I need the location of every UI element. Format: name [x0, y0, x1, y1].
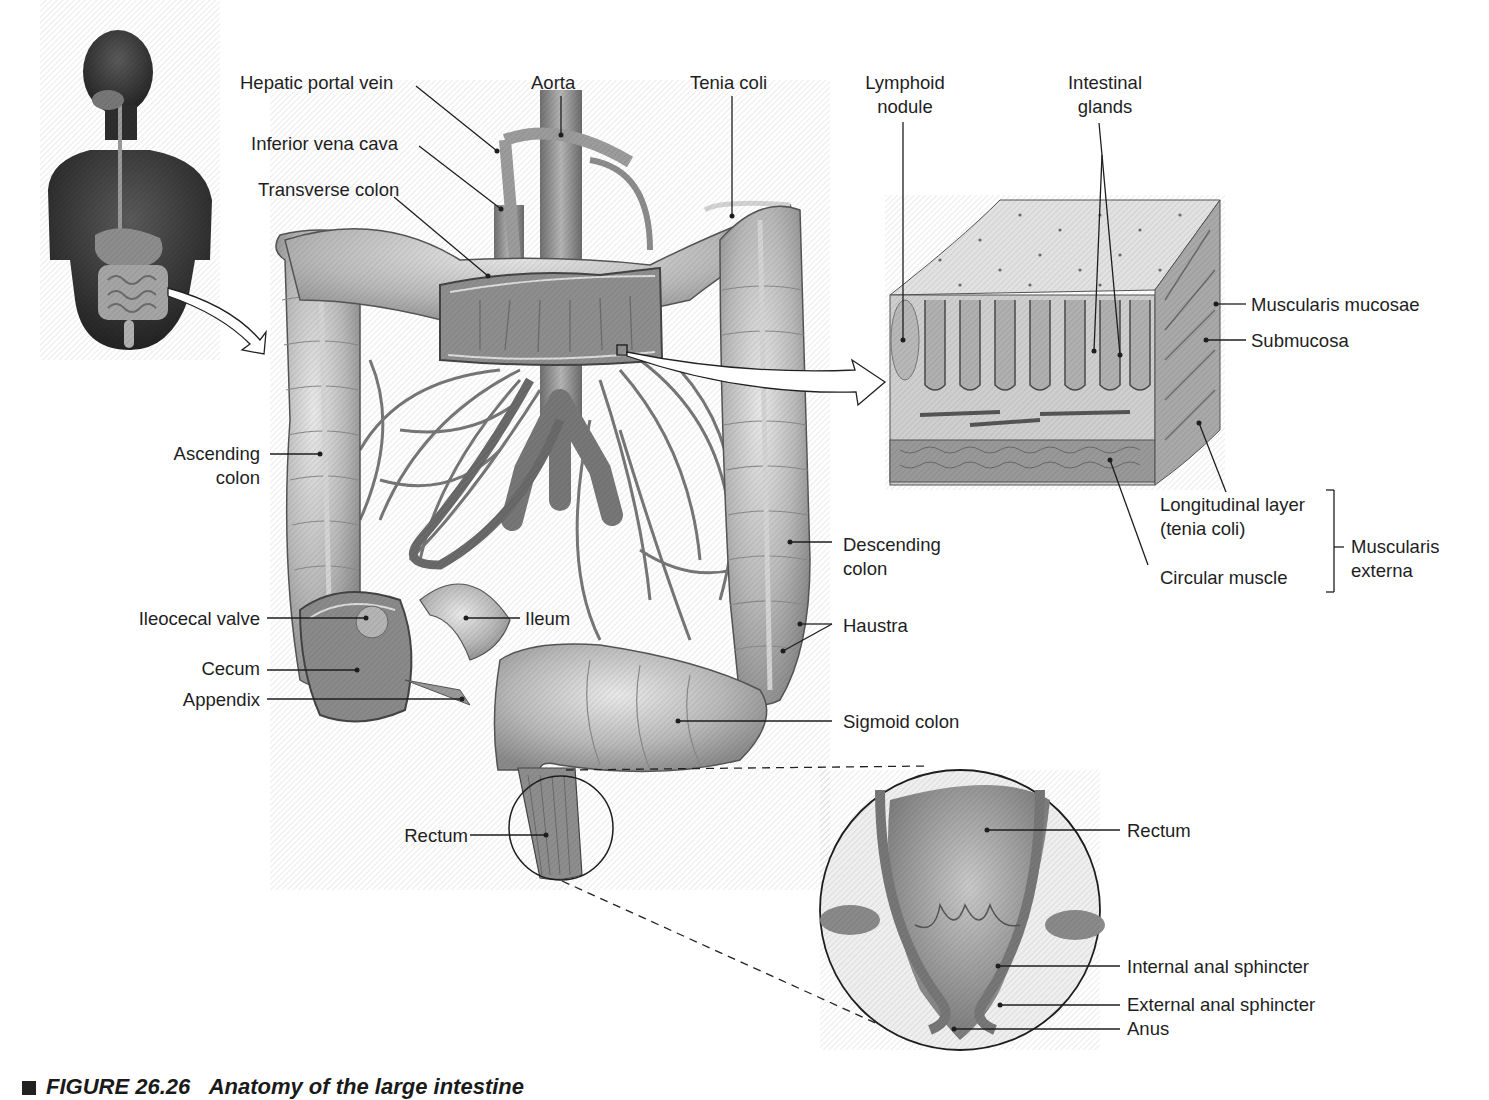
- label-lymphoid-nodule-line1: Lymphoid: [850, 71, 960, 95]
- label-haustra: Haustra: [843, 614, 908, 638]
- label-intestinal-glands: Intestinal glands: [1050, 71, 1160, 119]
- label-intestinal-glands-line2: glands: [1050, 95, 1160, 119]
- label-lymphoid-nodule: Lymphoid nodule: [850, 71, 960, 119]
- label-muscularis-mucosae: Muscularis mucosae: [1251, 293, 1420, 317]
- anal-canal-inset: [820, 770, 1105, 1050]
- label-muscularis-externa-line2: externa: [1351, 559, 1439, 583]
- label-anus: Anus: [1127, 1017, 1169, 1041]
- label-ileum: Ileum: [525, 607, 570, 631]
- label-submucosa: Submucosa: [1251, 329, 1349, 353]
- label-longitudinal-layer: Longitudinal layer (tenia coli): [1160, 493, 1305, 541]
- label-ascending-colon-line2: colon: [150, 466, 260, 490]
- figure-caption: FIGURE 26.26 Anatomy of the large intest…: [22, 1074, 524, 1100]
- label-descending-colon: Descending colon: [843, 533, 941, 581]
- label-external-anal-sphincter: External anal sphincter: [1127, 993, 1315, 1017]
- label-ascending-colon: Ascending colon: [150, 442, 260, 490]
- label-transverse-colon: Transverse colon: [258, 178, 399, 202]
- label-ileocecal-valve: Ileocecal valve: [100, 607, 260, 631]
- label-tenia-coli: Tenia coli: [690, 71, 767, 95]
- label-appendix: Appendix: [150, 688, 260, 712]
- colon-wall-section: [885, 195, 1225, 490]
- label-hepatic-portal-vein: Hepatic portal vein: [240, 71, 393, 95]
- label-rectum-inset: Rectum: [1127, 819, 1191, 843]
- label-longitudinal-layer-line1: Longitudinal layer: [1160, 493, 1305, 517]
- label-intestinal-glands-line1: Intestinal: [1050, 71, 1160, 95]
- label-sigmoid-colon: Sigmoid colon: [843, 710, 959, 734]
- caption-square-icon: [22, 1081, 36, 1095]
- label-circular-muscle: Circular muscle: [1160, 566, 1287, 590]
- label-inferior-vena-cava: Inferior vena cava: [251, 132, 398, 156]
- label-aorta: Aorta: [531, 71, 575, 95]
- label-muscularis-externa-line1: Muscularis: [1351, 535, 1439, 559]
- caption-number: FIGURE 26.26: [46, 1074, 190, 1099]
- label-longitudinal-layer-line2: (tenia coli): [1160, 517, 1305, 541]
- label-descending-colon-line2: colon: [843, 557, 941, 581]
- label-muscularis-externa: Muscularis externa: [1351, 535, 1439, 583]
- label-ascending-colon-line1: Ascending: [150, 442, 260, 466]
- label-rectum-main: Rectum: [360, 824, 468, 848]
- label-internal-anal-sphincter: Internal anal sphincter: [1127, 955, 1309, 979]
- caption-title: Anatomy of the large intestine: [209, 1074, 524, 1099]
- label-cecum: Cecum: [150, 657, 260, 681]
- label-lymphoid-nodule-line2: nodule: [850, 95, 960, 119]
- label-descending-colon-line1: Descending: [843, 533, 941, 557]
